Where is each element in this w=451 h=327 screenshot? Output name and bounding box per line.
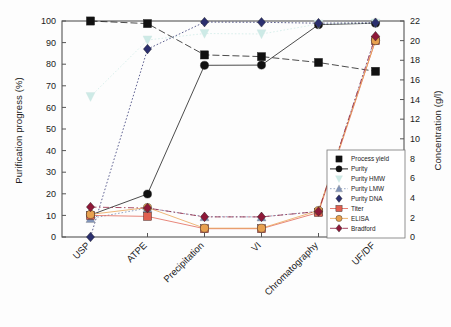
series-line [91,21,376,71]
series-line [91,23,376,96]
data-point-marker [86,232,94,242]
svg-text:8: 8 [410,154,415,164]
data-point-marker [200,17,208,27]
legend-item-label: Bradford [351,225,376,232]
legend-marker [336,156,342,162]
svg-text:2: 2 [410,213,415,223]
legend-marker [336,205,342,211]
data-point-marker [257,53,265,61]
data-point-marker [143,44,151,54]
svg-text:4: 4 [410,193,415,203]
legend-item-label: Purity [351,165,368,173]
data-point-marker [86,202,94,212]
data-point-marker [314,58,322,66]
svg-text:40: 40 [46,146,56,156]
plot-area: 0102030405060708090100 02468101214161820… [0,0,451,327]
data-point-marker [143,190,151,198]
data-point-marker [86,17,94,25]
data-point-marker [257,30,266,39]
data-point-marker [143,19,151,27]
x-axis-label: VI [249,240,263,254]
x-axis-label: Chromatography [262,239,320,297]
svg-text:100: 100 [41,16,56,26]
svg-text:10: 10 [46,211,56,221]
legend-marker [336,215,342,221]
x-axis-label: UF/DF [349,239,377,267]
data-point-marker [143,36,152,45]
svg-text:0: 0 [410,232,415,242]
x-axis-label: USP [70,240,92,262]
x-axis-label: Precipitation [161,240,206,285]
legend-marker [336,166,342,172]
data-point-marker [200,51,208,59]
data-point-marker [200,61,208,69]
x-axis-category-labels: USPATPEPrecipitationVIChromatographyUF/D… [70,239,377,297]
svg-text:90: 90 [46,38,56,48]
svg-text:20: 20 [410,36,420,46]
svg-text:6: 6 [410,173,415,183]
data-point-marker [257,224,265,232]
chart-legend: Process yieldPurityPurity HMWPurity LMWP… [327,150,405,238]
legend-item-label: Process yield [351,155,389,163]
svg-text:10: 10 [410,134,420,144]
svg-text:12: 12 [410,114,420,124]
legend-item-label: Purity LMW [351,185,385,193]
data-point-marker [257,61,265,69]
svg-text:14: 14 [410,95,420,105]
svg-text:16: 16 [410,75,420,85]
svg-text:18: 18 [410,55,420,65]
svg-text:80: 80 [46,59,56,69]
svg-text:70: 70 [46,81,56,91]
data-point-marker [143,212,151,220]
legend-item-label: Purity HMW [351,175,386,183]
data-point-marker [371,67,379,75]
svg-text:50: 50 [46,124,56,134]
svg-text:20: 20 [46,189,56,199]
legend-item-label: ELISA [351,215,370,222]
data-point-marker [200,224,208,232]
svg-text:22: 22 [410,16,420,26]
legend-item-label: Purity DNA [351,195,383,203]
x-axis-label: ATPE [124,240,149,265]
data-point-marker [257,17,265,27]
data-point-marker [86,93,95,102]
svg-text:30: 30 [46,167,56,177]
chart-figure: Purification progress (%) Concentration … [0,0,451,327]
svg-text:60: 60 [46,103,56,113]
legend-item-label: Titer [351,205,364,212]
svg-text:0: 0 [51,232,56,242]
